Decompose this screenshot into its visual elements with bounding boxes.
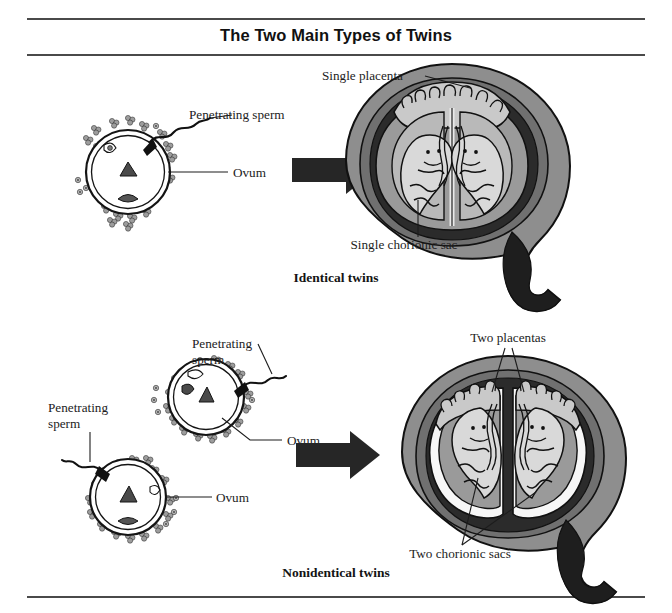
chorionic-sac-right	[513, 381, 586, 518]
ovum-inner-membrane	[92, 136, 165, 209]
polar-body	[118, 195, 138, 203]
caption-nonidentical-twins: Nonidentical twins	[0, 565, 672, 581]
twins-figure: The Two Main Types of Twins Identical tw…	[0, 0, 672, 613]
leader-two-chorionic-sacs	[462, 478, 536, 545]
bottom-divider-rule	[27, 596, 645, 598]
uterine-cavity-2	[426, 378, 594, 532]
penetrating-sperm-head	[143, 139, 157, 156]
leader-two-placentas	[492, 348, 524, 392]
fetus-left-identical	[392, 112, 452, 220]
fetus-right-identical	[452, 112, 512, 220]
label-ovum-top: Ovum	[233, 165, 267, 180]
single-ovum-illustration	[75, 115, 232, 231]
leader-penetrating-sperm-upper	[258, 344, 272, 374]
label-penetrating-sperm-upper-line1: Penetrating	[192, 336, 252, 351]
fetus-right-nonidentical	[515, 408, 564, 498]
label-penetrating-sperm-top: Penetrating sperm	[189, 107, 285, 122]
ovum-lower-nucleus	[120, 486, 137, 502]
myometrium-2	[416, 370, 604, 538]
label-penetrating-sperm-upper-line2: sperm	[192, 352, 225, 367]
caption-identical-twins: Identical twins	[0, 270, 672, 286]
label-ovum-upper: Ovum	[287, 433, 321, 448]
placenta-right	[516, 386, 580, 430]
label-penetrating-sperm-lower-line1: Penetrating	[48, 400, 108, 415]
ovum-lower-inner-membrane	[96, 465, 161, 530]
ovum-outer-membrane	[86, 130, 170, 214]
single-chorionic-sac-shape	[376, 98, 528, 230]
ovum-lower-illustration	[62, 432, 212, 543]
ovum-lower-polar-body	[118, 518, 138, 525]
transition-arrow-identical	[292, 146, 376, 194]
label-two-placentas: Two placentas	[470, 330, 546, 345]
chorionic-sac-left	[430, 381, 503, 518]
umbilical-cord-right	[519, 404, 524, 470]
page-title: The Two Main Types of Twins	[0, 26, 672, 45]
ovum-upper-polar-body	[182, 384, 194, 394]
ovum-cytoplasm-detail	[104, 143, 116, 152]
ovum-upper-inner-membrane	[174, 365, 239, 430]
ovum-upper-detail	[188, 370, 203, 379]
leader-penetrating-sperm	[210, 115, 232, 118]
label-single-placenta: Single placenta	[322, 68, 403, 83]
leader-ovum-upper	[222, 418, 282, 440]
uterine-cavity	[370, 86, 538, 240]
label-ovum-lower: Ovum	[216, 490, 250, 505]
transition-arrow-nonidentical	[296, 431, 380, 479]
corona-radiata-cells	[75, 115, 177, 231]
title-underline-rule	[27, 54, 645, 56]
ovum-upper-illustration	[151, 344, 286, 443]
illustration-layer: Penetrating sperm Ovum	[0, 0, 672, 613]
corona-radiata-cells-lower	[85, 455, 178, 543]
single-placenta-shape	[394, 82, 510, 128]
ovum-lower-detail	[150, 486, 160, 495]
ovum-upper-nucleus	[199, 387, 214, 402]
top-divider-rule	[27, 18, 645, 20]
penetrating-sperm-upper-head	[234, 382, 249, 398]
label-single-chorionic-sac: Single chorionic sac	[351, 237, 458, 252]
placenta-left	[436, 386, 500, 430]
umbilical-cord-left	[492, 404, 497, 470]
label-penetrating-sperm-lower-line2: sperm	[48, 416, 81, 431]
penetrating-sperm-lower-head	[95, 466, 110, 482]
ovum-upper-outer-membrane	[168, 359, 244, 435]
penetrating-sperm-lower-tail	[62, 460, 100, 470]
leader-single-placenta	[425, 76, 470, 88]
ovum-granule	[108, 146, 113, 151]
corona-radiata-cells-upper	[151, 355, 254, 443]
myometrium	[360, 78, 548, 246]
label-two-chorionic-sacs: Two chorionic sacs	[409, 546, 511, 561]
ovum-lower-outer-membrane	[90, 459, 166, 535]
penetrating-sperm-tail	[150, 118, 210, 142]
ovum-nucleus	[120, 162, 137, 176]
fetus-left-nonidentical	[452, 408, 501, 498]
cervical-canal-2	[557, 520, 616, 603]
penetrating-sperm-upper-tail	[244, 376, 286, 386]
